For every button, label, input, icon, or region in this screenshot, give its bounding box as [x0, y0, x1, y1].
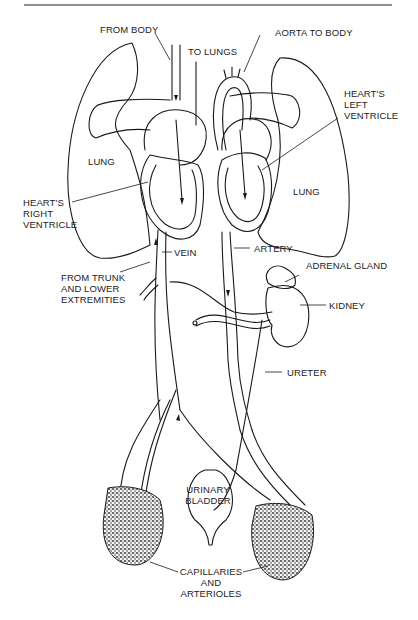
artery [222, 232, 252, 430]
right-capillary-bed [252, 503, 314, 580]
left-capillary-bed [103, 487, 163, 565]
renal-vein [196, 315, 270, 328]
leader-from-body [155, 33, 170, 60]
right-atrium [144, 110, 206, 165]
leader-from-trunk [120, 262, 150, 272]
label-ureter: URETER [287, 367, 327, 378]
label-artery: ARTERY [254, 243, 293, 254]
leader-right-ventricle [72, 182, 148, 202]
label-capillaries-arterioles: CAPILLARIES AND ARTERIOLES [172, 566, 250, 599]
label-aorta-to-body: AORTA TO BODY [275, 27, 353, 38]
label-vein: VEIN [174, 247, 197, 258]
left-pulmonary-vessel [89, 105, 150, 138]
label-lung-right: LUNG [293, 186, 320, 197]
right-lung [258, 58, 349, 257]
right-pulmonary-vessel [250, 95, 300, 128]
label-to-lungs: TO LUNGS [188, 46, 237, 57]
left-lung [68, 43, 150, 258]
left-leg-vessel-inner [145, 390, 176, 500]
label-adrenal-gland: ADRENAL GLAND [306, 260, 387, 271]
vein [155, 230, 180, 420]
left-atrium [222, 119, 271, 160]
kidney [266, 286, 309, 347]
circulatory-diagram: FROM BODY TO LUNGS AORTA TO BODY HEART'S… [0, 0, 418, 620]
leader-aorta [244, 35, 260, 72]
label-hearts-right-ventricle: HEART'S RIGHT VENTRICLE [23, 197, 77, 230]
label-from-body: FROM BODY [100, 24, 158, 35]
label-from-trunk: FROM TRUNK AND LOWER EXTREMITIES [61, 272, 125, 305]
label-lung-left: LUNG [88, 156, 115, 167]
label-kidney: KIDNEY [329, 300, 365, 311]
renal-artery [170, 282, 272, 314]
label-hearts-left-ventricle: HEART'S LEFT VENTRICLE [344, 88, 398, 121]
left-leg-vessel-outer [120, 400, 160, 500]
aorta-arch [213, 77, 251, 150]
label-urinary-bladder: URINARY BLADDER [184, 484, 232, 506]
urinary-bladder [188, 470, 232, 545]
leader-adrenal [285, 275, 299, 282]
leader-left-ventricle [262, 118, 338, 170]
superior-vena-cava [172, 45, 180, 100]
